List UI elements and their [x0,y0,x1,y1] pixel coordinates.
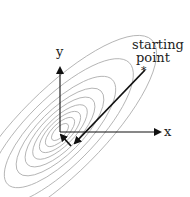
contour-plot [0,0,190,197]
x-axis-label: x [164,125,171,138]
diagram-canvas: y x starting point * [0,0,190,197]
y-axis-label: y [56,45,63,58]
start-label-line2: point [136,51,170,64]
start-marker-icon: * [141,64,147,77]
